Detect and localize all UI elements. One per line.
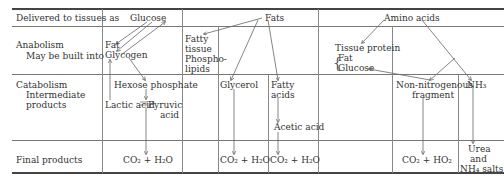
pathway-arrows: [0, 0, 504, 186]
